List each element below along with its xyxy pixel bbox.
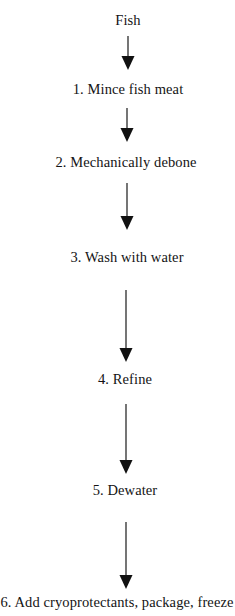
flow-node-step-5: 5. Dewater	[93, 483, 158, 498]
flow-node-step-1: 1. Mince fish meat	[73, 82, 184, 97]
flow-node-step-1-label: 1. Mince fish meat	[73, 82, 184, 97]
arrow-step-3-to-step-4	[120, 290, 133, 362]
flow-node-step-6: 6. Add cryoprotectants, package, freeze	[1, 595, 234, 610]
flow-node-step-6-label: 6. Add cryoprotectants, package, freeze	[1, 595, 234, 610]
arrow-step-1-to-step-2	[121, 108, 134, 142]
arrow-step-5-to-step-6	[120, 522, 133, 589]
flow-node-start-label: Fish	[115, 13, 140, 28]
flow-node-step-4-label: 4. Refine	[98, 372, 152, 387]
flow-node-step-4: 4. Refine	[98, 372, 152, 387]
flow-node-step-3-label: 3. Wash with water	[70, 250, 183, 265]
arrow-fish-to-step-1	[122, 36, 135, 70]
flowchart-diagram: Fish 1. Mince fish meat 2. Mechanically …	[0, 0, 235, 616]
flow-node-step-3: 3. Wash with water	[70, 250, 183, 265]
arrow-step-4-to-step-5	[120, 404, 133, 474]
arrow-step-2-to-step-3	[121, 183, 134, 230]
flow-node-start: Fish	[115, 13, 140, 28]
flow-node-step-5-label: 5. Dewater	[93, 483, 158, 498]
flow-node-step-2-label: 2. Mechanically debone	[55, 155, 196, 170]
flow-node-step-2: 2. Mechanically debone	[55, 155, 196, 170]
